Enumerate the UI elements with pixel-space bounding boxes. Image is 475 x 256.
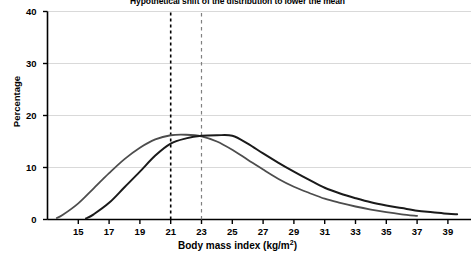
series-line-shifted-distribution [57,135,417,218]
x-axis-title-main: Body mass index (kg/m [178,240,290,251]
x-tick-label: 35 [374,227,398,237]
x-tick-label: 21 [159,227,183,237]
x-tick-label: 33 [344,227,368,237]
y-tick-label: 20 [11,111,37,121]
x-tick-label: 19 [128,227,152,237]
x-tick-label: 23 [190,227,214,237]
x-tick-label: 37 [405,227,429,237]
x-tick-label: 15 [66,227,90,237]
x-tick-label: 27 [251,227,275,237]
y-axis-title: Percentage [11,62,22,142]
x-tick-label: 17 [97,227,121,237]
chart-figure: Hypothetical shift of the distribution t… [0,0,475,256]
x-axis-title-tail: ) [294,240,297,251]
y-tick-label: 10 [11,163,37,173]
x-tick-label: 29 [282,227,306,237]
y-tick-label: 0 [11,215,37,225]
y-tick-label: 30 [11,59,37,69]
x-tick-label: 39 [436,227,460,237]
x-tick-label: 31 [313,227,337,237]
x-axis-title: Body mass index (kg/m2) [0,239,475,251]
plot-canvas [0,0,475,256]
x-tick-label: 25 [220,227,244,237]
y-tick-label: 40 [11,7,37,17]
